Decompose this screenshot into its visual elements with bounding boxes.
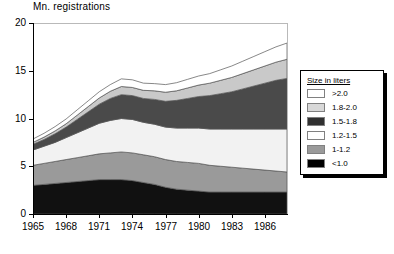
plot-frame-right: [287, 23, 288, 215]
x-tick-mark: [33, 214, 34, 218]
legend-box: Size in liters >2.01.8-2.01.5-1.81.2-1.5…: [300, 70, 384, 175]
x-tick-mark: [66, 214, 67, 218]
x-tick-mark: [232, 214, 233, 218]
legend-swatch: [307, 117, 325, 126]
legend-swatch: [307, 89, 325, 98]
x-tick-label: 1986: [254, 221, 276, 232]
x-tick-mark: [99, 214, 100, 218]
y-axis-line: [33, 23, 34, 215]
y-tick-mark: [29, 71, 33, 72]
legend-item-label: 1.8-2.0: [332, 103, 357, 112]
legend-swatch: [307, 103, 325, 112]
legend-item-label: 1-1.2: [332, 145, 350, 154]
x-tick-label: 1977: [155, 221, 177, 232]
x-axis-line: [33, 214, 288, 215]
y-tick-label: 20: [0, 17, 26, 28]
y-tick-label: 5: [0, 160, 26, 171]
legend-swatch: [307, 159, 325, 168]
x-tick-label: 1965: [22, 221, 44, 232]
chart-figure: Mn. registrations 05101520 1965196819711…: [0, 0, 394, 254]
legend-swatch: [307, 131, 325, 140]
x-tick-mark: [132, 214, 133, 218]
x-tick-mark: [199, 214, 200, 218]
y-tick-label: 10: [0, 113, 26, 124]
y-tick-label: 15: [0, 65, 26, 76]
x-tick-mark: [265, 214, 266, 218]
x-tick-label: 1971: [88, 221, 110, 232]
y-tick-label: 0: [0, 208, 26, 219]
legend-item-label: >2.0: [332, 89, 348, 98]
y-tick-mark: [29, 23, 33, 24]
plot-area: 05101520 1965196819711974197719801983198…: [33, 23, 288, 215]
x-tick-mark: [166, 214, 167, 218]
y-tick-mark: [29, 166, 33, 167]
legend-item-label: 1.2-1.5: [332, 131, 357, 140]
legend-swatch: [307, 145, 325, 154]
x-tick-label: 1968: [55, 221, 77, 232]
legend-item-label: 1.5-1.8: [332, 117, 357, 126]
stacked-area-series: [33, 23, 288, 215]
y-tick-mark: [29, 119, 33, 120]
x-tick-label: 1980: [188, 221, 210, 232]
plot-frame-top: [33, 23, 288, 24]
legend-item-label: <1.0: [332, 159, 348, 168]
y-axis-title: Mn. registrations: [33, 1, 110, 12]
x-tick-label: 1974: [121, 221, 143, 232]
legend-title: Size in liters: [307, 76, 350, 85]
x-tick-label: 1983: [221, 221, 243, 232]
